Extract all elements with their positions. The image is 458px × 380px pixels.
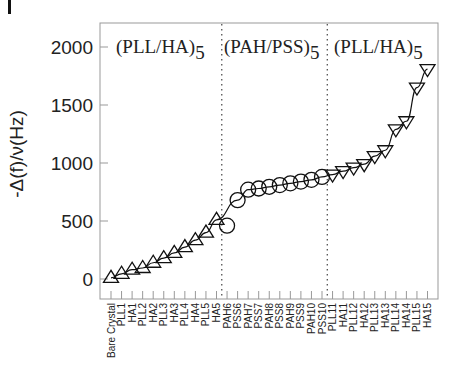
x-axis: Bare CrystalPLL1HA1PLL2HA2PLL3HA3PLL4HA4… xyxy=(106,291,434,358)
circle-marker xyxy=(220,218,235,233)
x-tick-label: HA1 xyxy=(127,303,138,323)
x-tick-label: PSS8 xyxy=(274,303,285,329)
y-tick-label: 1000 xyxy=(51,153,93,174)
chart: 0500100015002000 Bare CrystalPLL1HA1PLL2… xyxy=(0,0,458,380)
triangle-down-marker xyxy=(388,125,403,137)
x-tick-label: PLL15 xyxy=(411,303,422,332)
x-tick-label: HA11 xyxy=(338,303,349,328)
x-tick-label: PAH10 xyxy=(306,303,317,334)
y-tick-label: 1500 xyxy=(51,95,93,116)
x-tick-label: PSS9 xyxy=(295,303,306,329)
x-tick-label: PSS7 xyxy=(253,303,264,329)
x-tick-label: HA5 xyxy=(211,303,222,323)
block-annotations: (PLL/HA)5(PAH/PSS)5(PLL/HA)5 xyxy=(116,36,423,63)
y-tick-label: 500 xyxy=(61,211,93,232)
x-tick-label: PAH9 xyxy=(285,303,296,329)
y-axis: 0500100015002000 xyxy=(51,37,108,290)
block-label: (PLL/HA)5 xyxy=(334,36,423,63)
x-tick-label: HA14 xyxy=(401,303,412,328)
x-tick-label: HA12 xyxy=(359,303,370,328)
y-tick-label: 0 xyxy=(82,269,93,290)
data-markers xyxy=(104,65,436,283)
triangle-down-marker xyxy=(420,65,435,77)
y-tick-label: 2000 xyxy=(51,37,93,58)
x-tick-label: PLL13 xyxy=(369,303,380,332)
x-tick-label: PLL12 xyxy=(348,303,359,332)
triangle-down-marker xyxy=(409,83,424,95)
x-tick-label: PSS10 xyxy=(317,303,328,335)
fit-curve xyxy=(111,69,428,278)
x-tick-label: PLL1 xyxy=(116,303,127,327)
x-tick-label: PLL4 xyxy=(179,303,190,327)
plot-frame xyxy=(100,23,438,299)
block-label: (PLL/HA)5 xyxy=(116,36,205,63)
x-tick-label: PLL11 xyxy=(327,303,338,332)
x-tick-label: PSS6 xyxy=(232,303,243,329)
x-tick-label: HA13 xyxy=(380,303,391,328)
x-tick-label: Bare Crystal xyxy=(106,303,117,358)
x-tick-label: PLL3 xyxy=(158,303,169,327)
x-tick-label: PAH8 xyxy=(264,303,275,329)
block-dividers xyxy=(222,24,328,298)
x-tick-label: PLL5 xyxy=(200,303,211,327)
block-label: (PAH/PSS)5 xyxy=(224,36,319,63)
x-tick-label: PAH7 xyxy=(243,303,254,329)
x-tick-label: HA15 xyxy=(422,303,433,328)
x-tick-label: HA3 xyxy=(169,303,180,323)
x-tick-label: PLL14 xyxy=(390,303,401,332)
x-tick-label: HA4 xyxy=(190,303,201,323)
x-tick-label: PAH6 xyxy=(222,303,233,329)
x-tick-label: PLL2 xyxy=(137,303,148,327)
x-tick-label: HA2 xyxy=(148,303,159,323)
